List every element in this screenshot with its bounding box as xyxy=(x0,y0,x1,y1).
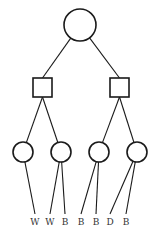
edge-circle-to-leaf-3 xyxy=(81,162,96,214)
leaf-label-3: B xyxy=(78,217,85,227)
leaf-label-0: W xyxy=(30,217,40,227)
chance-node-circle-3 xyxy=(127,142,147,162)
edge-square-to-circle-1 xyxy=(43,97,58,143)
leaf-labels: WWBBBDB xyxy=(30,217,129,227)
leaf-label-6: B xyxy=(123,217,130,227)
edge-square-to-circle-2 xyxy=(102,97,119,143)
game-tree-diagram: WWBBBDB xyxy=(0,0,155,236)
decision-node-square-1 xyxy=(110,78,129,97)
decision-node-square-0 xyxy=(33,78,52,97)
edge-circle-to-leaf-1 xyxy=(50,162,59,214)
tree-edges xyxy=(25,38,135,214)
tree-nodes xyxy=(13,9,147,162)
root-chance-node-circle xyxy=(64,9,96,41)
chance-node-circle-0 xyxy=(13,142,33,162)
leaf-label-4: B xyxy=(93,217,100,227)
edge-circle-to-leaf-2 xyxy=(62,162,65,214)
chance-node-circle-1 xyxy=(51,142,71,162)
leaf-label-1: W xyxy=(45,217,55,227)
edge-square-to-circle-0 xyxy=(26,97,42,143)
leaf-label-5: D xyxy=(106,217,113,227)
chance-node-circle-2 xyxy=(89,142,109,162)
edge-square-to-circle-3 xyxy=(120,97,134,142)
edge-circle-to-leaf-0 xyxy=(25,162,35,214)
edge-circle-to-leaf-6 xyxy=(126,162,135,214)
edge-root-to-square-0 xyxy=(43,38,71,78)
leaf-label-2: B xyxy=(62,217,69,227)
edge-root-to-square-1 xyxy=(90,38,120,78)
edge-circle-to-leaf-5 xyxy=(110,161,133,214)
edge-circle-to-leaf-4 xyxy=(96,162,99,214)
